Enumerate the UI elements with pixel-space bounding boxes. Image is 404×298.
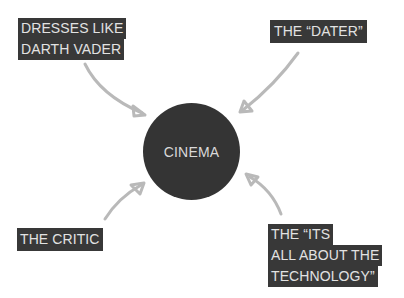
node-darth-vader: DRESSES LIKE DARTH VADER xyxy=(18,18,126,60)
arrow-tech-to-cinema xyxy=(246,174,281,214)
node-line: THE CRITIC xyxy=(17,228,103,251)
node-dater: THE “DATER” xyxy=(270,20,367,43)
node-line: DARTH VADER xyxy=(18,39,124,60)
cinema-hub: CINEMA xyxy=(143,103,240,200)
node-line: TECHNOLOGY” xyxy=(268,266,378,287)
node-line: THE “DATER” xyxy=(270,20,367,43)
node-line: DRESSES LIKE xyxy=(18,18,126,39)
diagram-canvas: CINEMA DRESSES LIKE DARTH VADER THE “DAT… xyxy=(0,0,404,298)
node-line: THE “ITS xyxy=(268,224,333,245)
cinema-label: CINEMA xyxy=(164,144,220,160)
node-critic: THE CRITIC xyxy=(17,228,103,251)
arrow-darth-to-cinema xyxy=(85,64,145,116)
arrow-critic-to-cinema xyxy=(105,183,144,219)
node-line: ALL ABOUT THE xyxy=(268,245,382,266)
arrow-dater-to-cinema xyxy=(240,53,298,112)
node-technology: THE “ITS ALL ABOUT THE TECHNOLOGY” xyxy=(268,224,382,287)
